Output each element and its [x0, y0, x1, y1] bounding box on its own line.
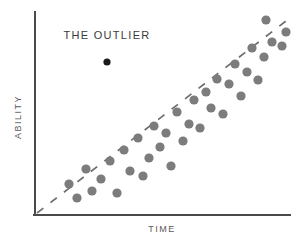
- outlier-annotation-label: THE OUTLIER: [47, 29, 167, 41]
- data-point: [281, 27, 290, 36]
- data-point: [195, 123, 204, 132]
- data-point: [247, 43, 256, 52]
- data-point: [189, 95, 198, 104]
- data-point: [184, 119, 193, 128]
- data-point: [161, 128, 170, 137]
- data-point: [138, 171, 147, 180]
- data-point: [178, 136, 187, 145]
- data-point: [166, 161, 175, 170]
- data-point: [149, 121, 158, 130]
- data-point: [105, 156, 114, 165]
- data-point: [96, 174, 105, 183]
- scatter-chart: ABILITY TIME THE OUTLIER: [0, 0, 304, 248]
- data-point: [201, 87, 210, 96]
- data-point: [218, 109, 227, 118]
- data-point: [87, 186, 96, 195]
- data-point: [72, 193, 81, 202]
- data-point: [155, 142, 164, 151]
- data-point: [144, 153, 153, 162]
- data-point: [267, 37, 276, 46]
- data-point: [172, 107, 181, 116]
- data-point: [119, 145, 128, 154]
- data-point: [133, 133, 142, 142]
- outlier-point: [103, 58, 110, 65]
- y-axis-label: ABILITY: [13, 87, 23, 147]
- data-point: [253, 75, 262, 84]
- data-point: [236, 91, 245, 100]
- x-axis-label: TIME: [34, 224, 290, 234]
- data-point: [277, 41, 286, 50]
- data-point: [261, 15, 270, 24]
- data-point: [64, 179, 73, 188]
- data-point: [259, 52, 268, 61]
- data-point: [224, 79, 233, 88]
- data-point: [125, 166, 134, 175]
- data-point: [242, 67, 251, 76]
- data-point: [112, 188, 121, 197]
- data-point: [206, 103, 215, 112]
- data-point: [212, 74, 221, 83]
- data-point: [230, 59, 239, 68]
- data-point: [81, 164, 90, 173]
